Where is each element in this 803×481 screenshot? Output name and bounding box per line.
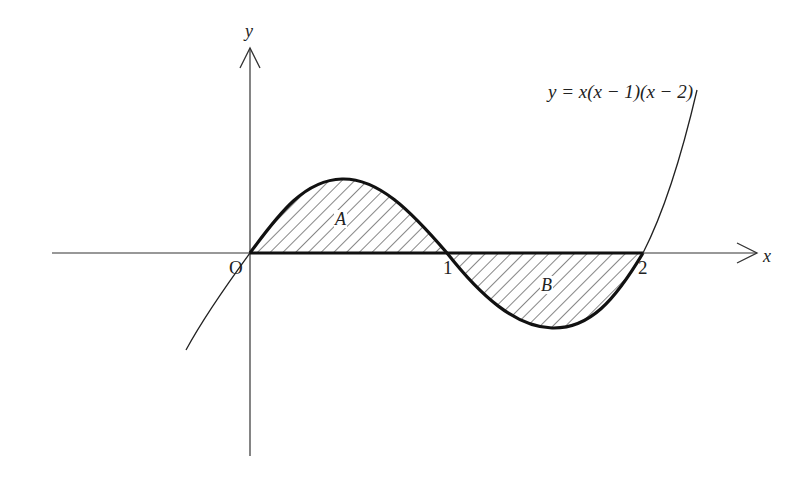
graph-canvas [0,0,803,481]
cubic-graph-figure: y = x(x − 1)(x − 2) y x O 1 2 A B [0,0,803,481]
tick-label-1: 1 [443,258,453,277]
y-axis-label: y [245,22,253,40]
tick-label-2: 2 [638,258,648,277]
x-axis-label: x [763,247,771,265]
equation-label: y = x(x − 1)(x − 2) [548,82,693,101]
origin-label: O [229,258,243,277]
region-b-label: B [540,276,553,294]
curve-right-tail [643,90,697,253]
region-a-label: A [334,210,347,228]
